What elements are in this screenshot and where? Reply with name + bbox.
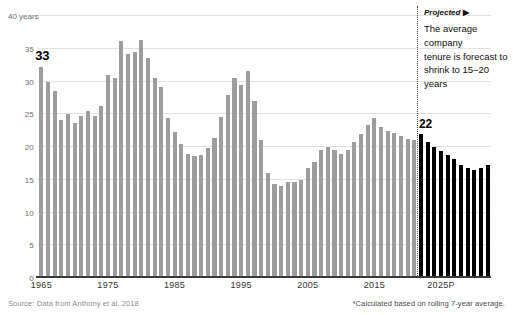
bar-projected	[459, 165, 463, 278]
bar-historical	[173, 132, 177, 278]
x-axis-line	[36, 276, 491, 278]
bar-historical	[292, 182, 296, 278]
bar-historical	[386, 131, 390, 278]
bar-historical	[266, 173, 270, 278]
y-axis-tick-label: 35	[25, 44, 34, 53]
bar-historical	[153, 78, 157, 278]
x-axis-tick-label: 1975	[97, 280, 118, 290]
bar-historical	[139, 40, 143, 278]
bar-historical	[86, 111, 90, 278]
bar-historical	[126, 54, 130, 278]
bar-historical	[366, 125, 370, 278]
projected-description: The average company tenure is forecast t…	[424, 22, 510, 91]
bar-historical	[286, 182, 290, 278]
bar-historical	[332, 150, 336, 278]
bar-historical	[113, 78, 117, 278]
x-axis-tick-label: 2005	[297, 280, 318, 290]
bar-historical	[106, 75, 110, 278]
bar-projected	[439, 151, 443, 278]
projected-label: Projected	[424, 8, 460, 17]
bar-historical	[326, 147, 330, 278]
bar-historical	[372, 118, 376, 278]
bar-historical	[312, 162, 316, 278]
y-axis-tick-label: 15	[25, 175, 34, 184]
bar-historical	[399, 136, 403, 278]
bar-historical	[379, 127, 383, 278]
bar-historical	[73, 123, 77, 278]
bar-historical	[192, 156, 196, 278]
bar-projected	[479, 168, 483, 278]
bar-historical	[39, 67, 43, 278]
bar-projected	[419, 134, 423, 278]
bar-historical	[306, 168, 310, 278]
bar-historical	[46, 82, 50, 278]
projection-divider	[417, 6, 418, 278]
bar-historical	[119, 41, 123, 278]
bar-historical	[99, 106, 103, 278]
y-axis-tick-label: 30	[25, 77, 34, 86]
bar-historical	[212, 138, 216, 278]
bar-historical	[299, 180, 303, 278]
x-axis-tick-label: 2015	[364, 280, 385, 290]
projected-line-1: The average company	[424, 22, 510, 50]
bar-historical	[159, 87, 163, 278]
bar-projected	[472, 170, 476, 278]
x-axis-tick-label: 1965	[31, 280, 52, 290]
bar-projected	[486, 165, 490, 278]
bar-historical	[79, 116, 83, 278]
bar-historical	[392, 133, 396, 278]
bar-projected	[446, 155, 450, 278]
bar-projected	[452, 159, 456, 278]
projected-header: Projected ▶	[424, 8, 510, 17]
y-axis-tick-label: 25	[25, 110, 34, 119]
footnote: *Calculated based on rolling 7-year aver…	[353, 299, 505, 308]
bar-historical	[272, 184, 276, 278]
x-axis-tick-label: 2025P	[427, 280, 455, 290]
y-axis-tick-label: 20	[25, 143, 34, 152]
bar-historical	[259, 140, 263, 278]
annotation-33: 33	[35, 48, 49, 63]
play-arrow-icon: ▶	[463, 9, 469, 17]
bar-projected	[432, 147, 436, 278]
chart-root: 40 years 05101520253035 33 22 Projected …	[0, 0, 513, 315]
bar-historical	[53, 91, 57, 278]
bar-historical	[232, 78, 236, 278]
bar-historical	[252, 101, 256, 278]
bar-historical	[146, 58, 150, 278]
bar-historical	[206, 148, 210, 278]
bar-historical	[346, 150, 350, 278]
bar-historical	[219, 117, 223, 278]
bar-historical	[199, 155, 203, 278]
x-axis-labels: 1965197519851995200520152025P	[38, 280, 491, 296]
x-axis-tick-label: 1995	[231, 280, 252, 290]
bar-historical	[359, 134, 363, 278]
bar-historical	[93, 116, 97, 278]
bar-historical	[59, 120, 63, 278]
bar-historical	[186, 154, 190, 278]
bar-historical	[279, 186, 283, 278]
projected-line-3: shrink to 15–20 years	[424, 63, 510, 91]
bar-historical	[66, 114, 70, 278]
bar-historical	[166, 118, 170, 278]
annotation-22: 22	[419, 117, 432, 131]
bar-historical	[179, 144, 183, 278]
bar-projected	[466, 168, 470, 278]
bar-historical	[319, 150, 323, 278]
y-axis-tick-label: 10	[25, 208, 34, 217]
projected-callout: Projected ▶ The average company tenure i…	[424, 8, 510, 91]
y-axis-labels: 05101520253035	[0, 16, 38, 278]
bar-projected	[426, 142, 430, 278]
source-note: Source: Data from Anthony et al. 2018	[8, 299, 139, 308]
bar-historical	[406, 139, 410, 279]
y-axis-tick-label: 5	[29, 241, 34, 250]
bar-historical	[226, 95, 230, 278]
bar-historical	[246, 71, 250, 278]
x-axis-tick-label: 1985	[164, 280, 185, 290]
bar-historical	[339, 154, 343, 278]
bar-historical	[133, 52, 137, 278]
bar-historical	[239, 85, 243, 278]
projected-line-2: tenure is forecast to	[424, 50, 510, 64]
bar-historical	[352, 142, 356, 278]
